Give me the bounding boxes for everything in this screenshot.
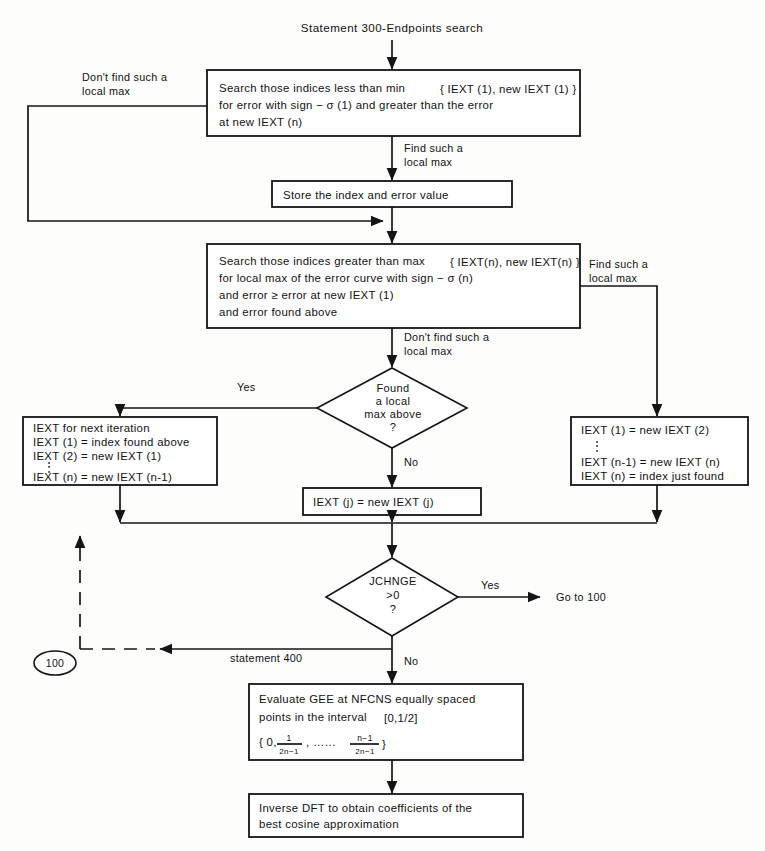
evaluate-gee-set-close: }: [382, 738, 386, 750]
search-high-line4: and error found above: [219, 306, 337, 318]
flowchart-canvas: Statement 300-Endpoints search Search th…: [0, 0, 765, 851]
label-find-such-1: Find such a: [404, 142, 463, 154]
found-local-max-line2: a local: [376, 395, 411, 407]
search-low-line3: at new IEXT (n): [219, 116, 302, 128]
found-local-max-line1: Found: [376, 382, 409, 394]
evaluate-gee-frac1-num: 1: [286, 733, 291, 743]
iext-shift-line1: IEXT (1) = new IEXT (2): [581, 424, 709, 436]
evaluate-gee-frac2-den: 2n−1: [355, 747, 375, 756]
store-text: Store the index and error value: [283, 189, 449, 201]
evaluate-gee-frac2-num: n−1: [357, 733, 372, 743]
label-statement-400: statement 400: [230, 652, 302, 664]
label-yes-diamond2: Yes: [481, 579, 500, 591]
jchnge-line1: JCHNGE: [369, 575, 417, 587]
label-dont-find-mid-2: local max: [404, 345, 453, 357]
iext-shift-line3: IEXT (n-1) = new IEXT (n): [581, 456, 720, 468]
flowchart-svg: Statement 300-Endpoints search Search th…: [0, 0, 765, 851]
found-local-max-line4: ?: [390, 421, 397, 433]
jchnge-line2: >0: [386, 589, 399, 601]
label-find-such-2: local max: [404, 156, 453, 168]
found-local-max-line3: max above: [364, 408, 421, 420]
search-low-line1-brace: { IEXT (1), new IEXT (1) }: [440, 83, 577, 95]
search-high-line1-brace: { IEXT(n), new IEXT(n) }: [450, 256, 580, 268]
evaluate-gee-set-mid: , ……: [306, 736, 336, 748]
iext-next-line2: IEXT (1) = index found above: [33, 436, 190, 448]
evaluate-gee-line1: Evaluate GEE at NFCNS equally spaced: [259, 693, 476, 705]
search-high-line3: and error ≥ error at new IEXT (1): [219, 289, 394, 301]
search-low-line1: Search those indices less than min: [219, 82, 405, 94]
label-dont-find-left-1: Don't find such a: [82, 71, 167, 83]
iext-shift-line2: ⋮: [591, 439, 604, 453]
jchnge-line3: ?: [390, 603, 397, 615]
connector-100-text: 100: [46, 657, 64, 669]
label-dont-find-left-2: local max: [82, 85, 131, 97]
edge-yes-to-iext-next: [120, 408, 317, 416]
goto-100-text: Go to 100: [556, 591, 606, 603]
label-find-such-right-1: Find such a: [589, 258, 648, 270]
edge-find-such-right: [580, 286, 657, 416]
iext-next-line1: IEXT for next iteration: [33, 422, 150, 434]
label-no-diamond2: No: [404, 655, 418, 667]
label-yes-diamond1: Yes: [237, 381, 256, 393]
evaluate-gee-line2: points in the interval: [259, 711, 367, 723]
iext-shift-line4: IEXT (n) = index just found: [581, 470, 724, 482]
node-inverse-dft-box: [249, 794, 523, 837]
search-high-line1: Search those indices greater than max: [219, 255, 425, 267]
search-low-line2: for error with sign − σ (1) and greater …: [219, 99, 493, 111]
diagram-title: Statement 300-Endpoints search: [301, 21, 483, 34]
evaluate-gee-bracket: [0,1/2]: [384, 712, 418, 724]
inverse-dft-line1: Inverse DFT to obtain coefficients of th…: [259, 802, 472, 814]
iext-next-line5: IEXT (n) = new IEXT (n-1): [33, 471, 172, 483]
iext-j-text: IEXT (j) = new IEXT (j): [313, 496, 434, 508]
evaluate-gee-frac1-den: 2n−1: [279, 747, 299, 756]
label-find-such-right-2: local max: [589, 272, 638, 284]
label-dont-find-mid-1: Don't find such a: [404, 331, 489, 343]
inverse-dft-line2: best cosine approximation: [259, 818, 399, 830]
search-high-line2: for local max of the error curve with si…: [219, 272, 473, 284]
label-no-diamond1: No: [404, 456, 418, 468]
evaluate-gee-set-open: { 0,: [259, 736, 277, 748]
